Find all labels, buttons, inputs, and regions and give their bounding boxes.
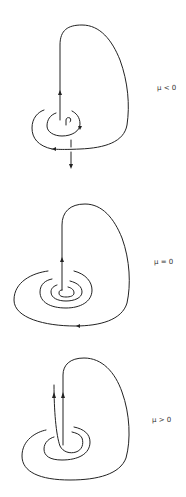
spiral-outer-arc (32, 110, 52, 149)
spiral-ring-2 (40, 271, 92, 308)
panel-label: μ = 0 (154, 258, 173, 266)
panel-mu-zero: μ = 0 (0, 170, 186, 330)
arrow-up-outer-icon (61, 392, 65, 398)
spiral-ring-4 (59, 287, 74, 297)
stable-manifold-inner (54, 385, 83, 453)
spiral-ring-3 (51, 281, 82, 301)
panel-label: μ > 0 (152, 416, 171, 424)
arrow-up-icon (60, 257, 64, 262)
arrow-up-icon (58, 90, 62, 95)
arrow-up-inner-icon (52, 392, 56, 398)
unstable-manifold-outer (22, 358, 129, 480)
spiral-inner-arc (47, 111, 80, 136)
panel-label: μ < 0 (157, 84, 176, 92)
center-hook (66, 118, 71, 125)
phase-portrait-mu-zero (0, 170, 186, 330)
arrow-left-icon (76, 324, 80, 328)
arrow-down-icon (69, 164, 73, 169)
homoclinic-orbit-outer (52, 25, 128, 149)
arrow-left-icon (52, 147, 56, 151)
panel-mu-positive: μ > 0 (0, 330, 186, 497)
phase-portrait-mu-positive (0, 330, 186, 497)
panel-mu-negative: μ < 0 (0, 0, 186, 170)
